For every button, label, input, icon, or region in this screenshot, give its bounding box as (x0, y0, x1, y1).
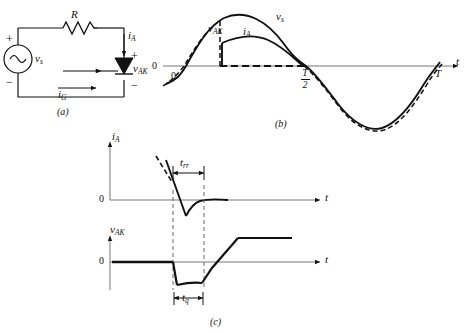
circuit-schematic (4, 22, 133, 97)
vak-drop (173, 262, 177, 285)
wire-bottom (18, 73, 124, 97)
panel-c-vak-time-label: t (325, 254, 328, 265)
source-voltage-trace-label: vs (276, 11, 284, 23)
panel-b-left-zero-label: 0 (152, 60, 157, 71)
resistor-label: R (71, 9, 78, 20)
device-voltage-label: vAK (133, 63, 147, 75)
panel-c-ia-time-label: t (325, 192, 328, 203)
panel-c-top-plot (110, 142, 320, 290)
anode-current-label: iA (128, 30, 136, 42)
panel-c-vak-zero-label: 0 (99, 255, 104, 266)
tq-label: tq (182, 292, 189, 304)
device-minus-sign: − (131, 79, 138, 91)
panel-a-caption: (a) (57, 106, 69, 117)
panel-c-caption: (c) (210, 316, 221, 327)
source-plus-sign: + (6, 33, 13, 45)
panel-c-ia-axis-label: iA (112, 131, 120, 143)
anode-current-trace (222, 36, 303, 66)
panel-b-time-axis-label: t (456, 56, 459, 67)
device-voltage-trace-label: vAK (208, 23, 222, 35)
panel-b-period-tick: T (435, 68, 441, 79)
panel-b-caption: (b) (275, 118, 287, 129)
gate-current-label: iG (58, 89, 66, 101)
panel-c-ia-zero-label: 0 (99, 193, 104, 204)
anode-current-trace-label: iA (243, 26, 251, 38)
vak-reverse-plateau (177, 283, 202, 285)
ia-recovery-tail (186, 199, 228, 216)
panel-b-origin-label: 0 (171, 70, 176, 81)
source-minus-sign: − (6, 76, 13, 88)
figure-vector-layer (0, 0, 476, 334)
source-label: vs (35, 53, 43, 65)
panel-c-bottom-plot (110, 236, 320, 305)
panel-b-half-period-tick: T 2 (298, 68, 312, 90)
resistor-symbol (63, 22, 97, 34)
device-voltage-dashed-negative (304, 64, 442, 131)
trr-label: trr (180, 157, 189, 169)
vak-rise (202, 238, 238, 283)
ac-source-sine (10, 56, 26, 63)
panel-c-vak-axis-label: vAK (110, 224, 124, 236)
thyristor-figure: R vs + − iA + vAK − iG (a) 0 0 vs iA vAK… (0, 0, 476, 334)
device-plus-sign: + (131, 50, 138, 62)
